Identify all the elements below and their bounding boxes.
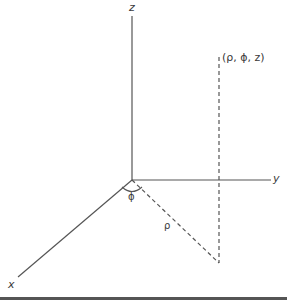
phi-angle-label: ϕ <box>128 192 135 202</box>
x-axis <box>18 180 132 277</box>
rho-radius-label: ρ <box>164 221 170 231</box>
z-axis-label: z <box>129 2 135 13</box>
cylindrical-coordinates-diagram <box>0 0 287 300</box>
point-coordinates-label: (ρ, ϕ, z) <box>222 52 265 63</box>
y-axis-label: y <box>273 173 280 184</box>
rho-projection-line <box>132 180 219 263</box>
x-axis-label: x <box>8 279 15 290</box>
